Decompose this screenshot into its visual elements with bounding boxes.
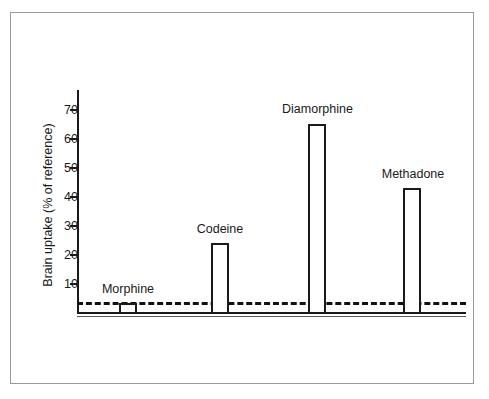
- bar-methadone: [403, 188, 421, 314]
- bar-chart-plot-area: 70 60 50 40 30 20 10 Brain uptake (% of …: [0, 0, 489, 399]
- y-tick-mark-20: [70, 254, 78, 256]
- y-tick-mark-30: [70, 225, 78, 227]
- y-tick-mark-70: [70, 109, 78, 111]
- bar-codeine: [211, 243, 229, 314]
- y-tick-mark-60: [70, 138, 78, 140]
- bar-label-codeine: Codeine: [182, 222, 258, 236]
- y-tick-mark-50: [70, 167, 78, 169]
- y-tick-mark-40: [70, 196, 78, 198]
- figure-canvas: 70 60 50 40 30 20 10 Brain uptake (% of …: [0, 0, 489, 399]
- x-axis-baseline-rule: [77, 316, 466, 317]
- bar-morphine: [119, 303, 137, 314]
- bar-label-morphine: Morphine: [88, 282, 168, 296]
- y-axis-title: Brain uptake (% of reference): [41, 95, 55, 315]
- bar-label-methadone: Methadone: [369, 167, 457, 181]
- bar-diamorphine: [308, 124, 326, 314]
- y-tick-mark-10: [70, 283, 78, 285]
- bar-label-diamorphine: Diamorphine: [270, 102, 365, 116]
